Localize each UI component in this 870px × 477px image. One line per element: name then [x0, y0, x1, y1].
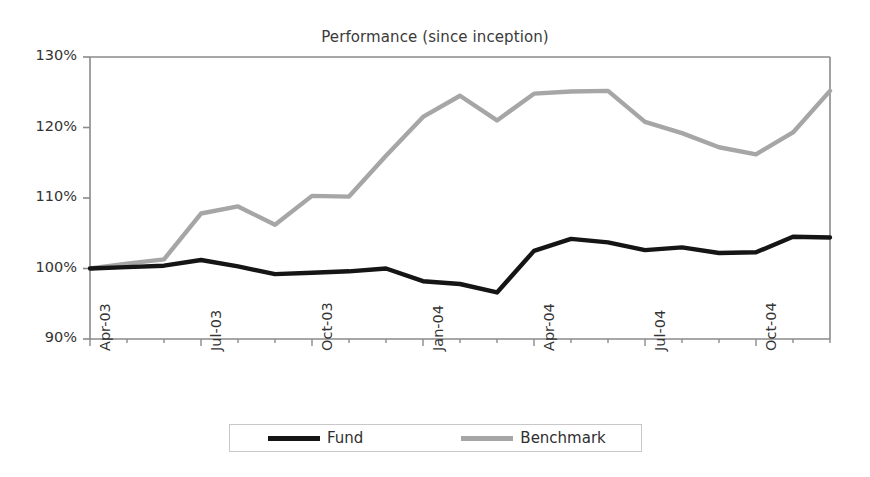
series-layer — [90, 91, 830, 293]
x-tick-label: Oct-04 — [763, 302, 779, 351]
x-tick-label: Apr-04 — [541, 303, 557, 351]
legend-entry-fund: Fund — [268, 425, 363, 451]
x-tick-label: Oct-03 — [319, 302, 335, 351]
chart-legend: Fund Benchmark — [229, 424, 642, 452]
benchmark-line-swatch-icon — [461, 436, 513, 441]
plot-canvas — [0, 0, 870, 477]
x-tick-marks — [90, 339, 830, 346]
axes-group — [90, 57, 830, 339]
y-tick-label: 110% — [15, 188, 77, 204]
x-tick-label: Jul-03 — [208, 310, 224, 351]
fund-line-swatch-icon — [268, 436, 320, 441]
legend-label-benchmark: Benchmark — [520, 429, 605, 447]
y-tick-label: 130% — [15, 47, 77, 63]
fund-line — [90, 237, 830, 293]
x-tick-label: Jul-04 — [652, 310, 668, 351]
x-tick-label: Jan-04 — [430, 305, 446, 351]
x-tick-label: Apr-03 — [97, 303, 113, 351]
performance-chart: Performance (since inception) 90%100%110… — [0, 0, 870, 477]
y-tick-label: 90% — [15, 329, 77, 345]
benchmark-line — [90, 91, 830, 269]
legend-entry-benchmark: Benchmark — [461, 425, 605, 451]
y-tick-label: 100% — [15, 259, 77, 275]
legend-label-fund: Fund — [327, 429, 363, 447]
y-tick-label: 120% — [15, 118, 77, 134]
y-tick-marks — [83, 57, 90, 339]
